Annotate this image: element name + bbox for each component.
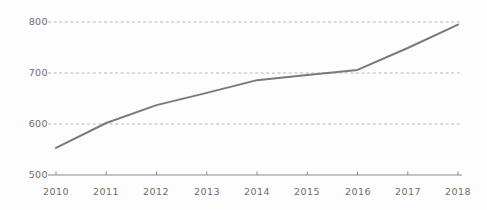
series-line xyxy=(56,25,458,148)
x-tick-label-2012: 2012 xyxy=(133,187,179,197)
x-tick-label-2011: 2011 xyxy=(83,187,129,197)
chart-plot-area xyxy=(0,0,487,210)
line-chart: 800 700 600 500 2010 2011 2012 2013 2014… xyxy=(0,0,487,210)
gridline-group xyxy=(48,22,462,124)
x-tick-label-2015: 2015 xyxy=(284,187,330,197)
x-tick-label-2018: 2018 xyxy=(435,187,481,197)
y-tick-label-600: 600 xyxy=(14,119,48,129)
x-tick-label-2010: 2010 xyxy=(33,187,79,197)
x-tick-label-2014: 2014 xyxy=(234,187,280,197)
y-tick-label-700: 700 xyxy=(14,68,48,78)
x-tick-label-2017: 2017 xyxy=(385,187,431,197)
y-tick-label-800: 800 xyxy=(14,17,48,27)
x-tick-label-2013: 2013 xyxy=(184,187,230,197)
x-tick-label-2016: 2016 xyxy=(335,187,381,197)
y-tick-label-500: 500 xyxy=(14,170,48,180)
